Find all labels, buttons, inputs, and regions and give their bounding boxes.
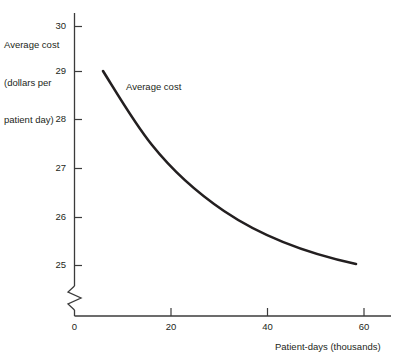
- x-tick-label-60: 60: [351, 321, 377, 334]
- y-tick-label-29: 29: [40, 65, 66, 78]
- y-tick-label-30: 30: [40, 20, 66, 33]
- x-axis-title: Patient-days (thousands): [275, 341, 381, 354]
- y-tick-label-25: 25: [40, 259, 66, 272]
- x-tick-label-0: 0: [62, 321, 88, 334]
- average-cost-curve: [103, 71, 356, 264]
- y-tick-label-26: 26: [40, 211, 66, 224]
- y-axis-title-line-2: (dollars per: [4, 77, 70, 90]
- y-tick-label-28: 28: [40, 113, 66, 126]
- y-axis-title: Average cost (dollars per patient day): [4, 14, 70, 152]
- chart-container: Average cost (dollars per patient day) 3…: [0, 0, 405, 364]
- x-tick-label-20: 20: [158, 321, 184, 334]
- x-tick-label-40: 40: [255, 321, 281, 334]
- y-axis-break-icon: [68, 286, 81, 310]
- y-tick-label-27: 27: [40, 162, 66, 175]
- y-axis-title-line-1: Average cost: [4, 39, 70, 52]
- series-annotation-average-cost: Average cost: [126, 81, 181, 94]
